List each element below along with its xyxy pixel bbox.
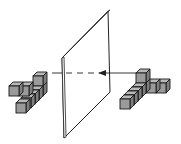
mirror-image-structure bbox=[9, 72, 47, 113]
mirror-reflection-diagram bbox=[0, 0, 181, 144]
cube bbox=[33, 72, 47, 86]
cube bbox=[136, 69, 150, 83]
cube bbox=[120, 95, 134, 109]
cube bbox=[9, 82, 23, 96]
original-structure bbox=[120, 69, 170, 109]
cube bbox=[16, 99, 30, 113]
